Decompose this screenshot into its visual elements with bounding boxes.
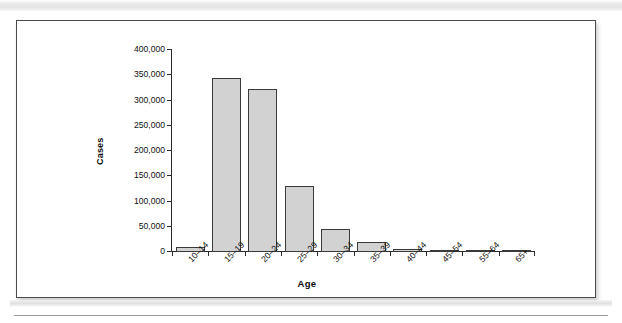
y-tick-label-column: 050,000100,000150,000200,000250,000300,0… (107, 21, 165, 299)
y-tick-label: 400,000 (107, 45, 165, 54)
x-tick-mark (172, 252, 173, 256)
x-axis-title: Age (17, 278, 597, 289)
scan-artifact-top-band (0, 0, 622, 11)
y-tick-label: 50,000 (107, 221, 165, 230)
bar-series (172, 49, 535, 252)
plot-area: Cases 050,000100,000150,000200,000250,00… (17, 21, 597, 299)
x-tick-mark (317, 252, 318, 256)
y-tick-label: 200,000 (107, 146, 165, 155)
y-tick-label: 250,000 (107, 120, 165, 129)
x-tick-mark (426, 252, 427, 256)
chart-figure-frame: Cases 050,000100,000150,000200,000250,00… (16, 20, 596, 298)
y-tick-label: 0 (107, 247, 165, 256)
bar (248, 89, 277, 252)
x-tick-mark (281, 252, 282, 256)
x-tick-mark (208, 252, 209, 256)
y-tick-label: 150,000 (107, 171, 165, 180)
x-tick-mark (354, 252, 355, 256)
x-tick-mark (499, 252, 500, 256)
x-tick-mark (390, 252, 391, 256)
scan-artifact-bottom-smudge (10, 300, 612, 307)
y-tick-label: 350,000 (107, 70, 165, 79)
scan-artifact-bottom-rule (14, 315, 608, 316)
bar (212, 78, 241, 252)
y-tick-label: 300,000 (107, 95, 165, 104)
x-tick-mark (462, 252, 463, 256)
x-tick-mark (245, 252, 246, 256)
x-tick-mark (534, 252, 535, 256)
y-tick-label: 100,000 (107, 196, 165, 205)
